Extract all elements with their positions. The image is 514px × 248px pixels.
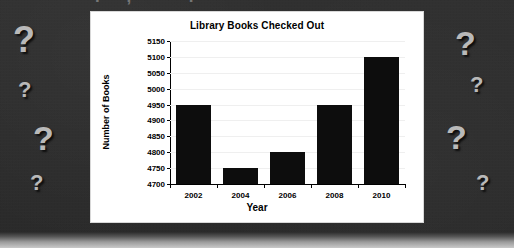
- cropped-headline-glyphs: . , ' .: [95, 0, 204, 5]
- x-tick-mark: [405, 184, 406, 188]
- bar: [176, 105, 211, 184]
- x-axis-line: [170, 184, 406, 185]
- bottom-gradient-band: [0, 232, 514, 248]
- y-tick-label: 5000: [147, 84, 165, 93]
- y-tick-label: 5150: [147, 37, 165, 46]
- x-axis-title: Year: [91, 202, 423, 213]
- bar: [270, 152, 305, 184]
- question-mark-decoration: ?: [455, 26, 476, 60]
- y-tick-label: 4800: [147, 148, 165, 157]
- y-tick-mark: [167, 168, 170, 169]
- y-tick-mark: [167, 105, 170, 106]
- chart-panel: Library Books Checked Out Number of Book…: [91, 12, 423, 222]
- y-tick-label: 4750: [147, 164, 165, 173]
- y-tick-label: 5050: [147, 68, 165, 77]
- gridline: [170, 41, 405, 42]
- question-mark-decoration: ?: [33, 121, 54, 155]
- question-mark-decoration: ?: [30, 172, 43, 194]
- y-tick-mark: [167, 152, 170, 153]
- chart-title: Library Books Checked Out: [91, 20, 423, 31]
- question-mark-decoration: ?: [446, 120, 467, 154]
- x-tick-label: 2002: [185, 191, 203, 200]
- x-tick-label: 2010: [373, 191, 391, 200]
- x-tick-mark: [217, 184, 218, 188]
- bar: [364, 57, 399, 184]
- y-axis-title: Number of Books: [101, 67, 111, 157]
- y-tick-label: 5100: [147, 52, 165, 61]
- screenshot-root: . , ' . ???????? Library Books Checked O…: [0, 0, 514, 248]
- y-tick-mark: [167, 41, 170, 42]
- y-tick-label: 4900: [147, 116, 165, 125]
- x-tick-label: 2008: [326, 191, 344, 200]
- bar: [223, 168, 258, 184]
- y-tick-mark: [167, 120, 170, 121]
- x-tick-mark: [311, 184, 312, 188]
- y-tick-mark: [167, 73, 170, 74]
- y-tick-label: 4700: [147, 180, 165, 189]
- x-tick-label: 2006: [279, 191, 297, 200]
- question-mark-decoration: ?: [476, 172, 489, 194]
- y-tick-label: 4850: [147, 132, 165, 141]
- question-mark-decoration: ?: [13, 22, 35, 58]
- question-mark-decoration: ?: [470, 74, 483, 96]
- y-tick-mark: [167, 89, 170, 90]
- bar: [317, 105, 352, 184]
- y-tick-mark: [167, 57, 170, 58]
- plot-area: 4700475048004850490049505000505051005150…: [170, 41, 405, 184]
- x-tick-label: 2004: [232, 191, 250, 200]
- x-tick-mark: [170, 184, 171, 188]
- x-tick-mark: [264, 184, 265, 188]
- y-tick-mark: [167, 136, 170, 137]
- cropped-headline-sliver: . , ' .: [0, 0, 514, 5]
- question-mark-decoration: ?: [18, 79, 31, 101]
- y-tick-label: 4950: [147, 100, 165, 109]
- y-axis-line: [170, 41, 171, 184]
- x-tick-mark: [358, 184, 359, 188]
